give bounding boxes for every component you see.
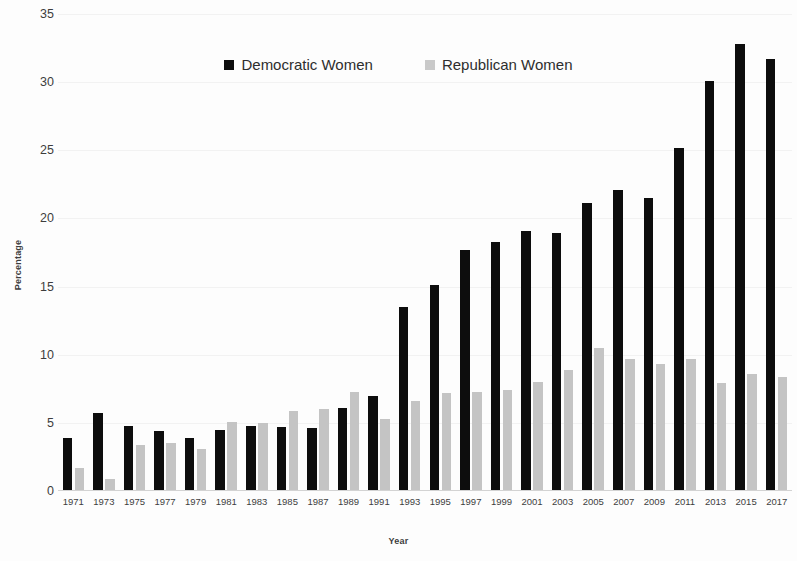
bar-republican-women-1983[interactable]	[258, 423, 268, 491]
bar-republican-women-1979[interactable]	[197, 449, 207, 491]
x-axis-tick-2015: 2015	[731, 497, 762, 507]
bar-group-1979	[180, 14, 211, 491]
bar-group-1981	[211, 14, 242, 491]
bar-democratic-women-2009[interactable]	[644, 198, 654, 491]
bar-republican-women-2005[interactable]	[594, 348, 604, 491]
bar-republican-women-1993[interactable]	[411, 401, 421, 491]
bar-democratic-women-1985[interactable]	[277, 427, 287, 491]
x-axis-tick-2003: 2003	[547, 497, 578, 507]
y-axis-tick-10: 10	[20, 349, 54, 362]
bar-group-1999	[486, 14, 517, 491]
bar-democratic-women-1983[interactable]	[246, 426, 256, 491]
bar-group-1991	[364, 14, 395, 491]
gray-square-icon	[425, 60, 435, 70]
bar-group-1987	[303, 14, 334, 491]
y-axis-tick-25: 25	[20, 144, 54, 157]
bar-group-2011	[670, 14, 701, 491]
bar-democratic-women-1991[interactable]	[368, 396, 378, 491]
x-axis-tick-2001: 2001	[517, 497, 548, 507]
bar-republican-women-2007[interactable]	[625, 359, 635, 491]
bar-group-1995	[425, 14, 456, 491]
bar-group-2007	[609, 14, 640, 491]
bar-group-2013	[700, 14, 731, 491]
bar-republican-women-1977[interactable]	[166, 443, 176, 491]
bar-democratic-women-1993[interactable]	[399, 307, 409, 491]
bar-republican-women-2003[interactable]	[564, 370, 574, 491]
bar-republican-women-1997[interactable]	[472, 392, 482, 491]
x-axis-tick-2007: 2007	[609, 497, 640, 507]
bar-group-1977	[150, 14, 181, 491]
bar-democratic-women-2001[interactable]	[521, 231, 531, 491]
x-axis-tick-1985: 1985	[272, 497, 303, 507]
x-axis-tick-1979: 1979	[180, 497, 211, 507]
bar-republican-women-1971[interactable]	[75, 468, 85, 491]
bar-group-2015	[731, 14, 762, 491]
bar-democratic-women-1971[interactable]	[63, 438, 73, 491]
legend-item-republican-women[interactable]: Republican Women	[425, 56, 573, 73]
plot-area	[58, 14, 792, 491]
bar-group-1989	[333, 14, 364, 491]
x-axis-tick-1999: 1999	[486, 497, 517, 507]
bar-group-2001	[517, 14, 548, 491]
bar-republican-women-1999[interactable]	[503, 390, 513, 491]
bar-republican-women-1995[interactable]	[442, 393, 452, 491]
bar-democratic-women-2005[interactable]	[582, 203, 592, 491]
x-axis-tick-2017: 2017	[761, 497, 792, 507]
bars-layer	[58, 14, 792, 491]
x-axis-tick-1989: 1989	[333, 497, 364, 507]
bar-democratic-women-1975[interactable]	[124, 426, 134, 491]
bar-democratic-women-2003[interactable]	[552, 233, 562, 491]
bar-democratic-women-1979[interactable]	[185, 438, 195, 491]
bar-democratic-women-1977[interactable]	[154, 431, 164, 491]
bar-republican-women-2015[interactable]	[747, 374, 757, 491]
bar-republican-women-1989[interactable]	[350, 392, 360, 491]
y-axis-tick-30: 30	[20, 76, 54, 89]
bar-group-1993	[394, 14, 425, 491]
x-axis-tick-1991: 1991	[364, 497, 395, 507]
x-axis-tick-labels: 1971197319751977197919811983198519871989…	[58, 497, 792, 513]
x-axis-tick-1971: 1971	[58, 497, 89, 507]
bar-democratic-women-2013[interactable]	[705, 81, 715, 491]
bar-democratic-women-1999[interactable]	[491, 242, 501, 491]
bar-republican-women-2009[interactable]	[656, 364, 666, 491]
bar-group-2005	[578, 14, 609, 491]
legend-label-republican-women: Republican Women	[442, 56, 573, 73]
x-axis-tick-1975: 1975	[119, 497, 150, 507]
bar-democratic-women-1995[interactable]	[430, 285, 440, 491]
bar-republican-women-2001[interactable]	[533, 382, 543, 491]
bar-republican-women-2017[interactable]	[778, 377, 788, 491]
bar-democratic-women-1973[interactable]	[93, 413, 103, 491]
bar-democratic-women-1989[interactable]	[338, 408, 348, 491]
x-axis-tick-1983: 1983	[242, 497, 273, 507]
bar-democratic-women-1997[interactable]	[460, 250, 470, 491]
x-axis-tick-1997: 1997	[456, 497, 487, 507]
x-axis-tick-2005: 2005	[578, 497, 609, 507]
x-axis-tick-1977: 1977	[150, 497, 181, 507]
y-axis-tick-35: 35	[20, 8, 54, 21]
bar-group-1973	[89, 14, 120, 491]
x-axis-tick-1981: 1981	[211, 497, 242, 507]
legend-item-democratic-women[interactable]: Democratic Women	[224, 56, 372, 73]
bar-group-1975	[119, 14, 150, 491]
x-axis-tick-2013: 2013	[700, 497, 731, 507]
x-axis-line	[58, 490, 792, 491]
bar-republican-women-1987[interactable]	[319, 409, 329, 491]
bar-republican-women-1981[interactable]	[227, 422, 237, 492]
bar-republican-women-1991[interactable]	[380, 419, 390, 491]
bar-group-2003	[547, 14, 578, 491]
bar-democratic-women-2017[interactable]	[766, 59, 776, 491]
bar-democratic-women-2007[interactable]	[613, 190, 623, 491]
bar-democratic-women-2011[interactable]	[674, 148, 684, 491]
x-axis-tick-1973: 1973	[89, 497, 120, 507]
bar-democratic-women-2015[interactable]	[735, 44, 745, 491]
bar-republican-women-2011[interactable]	[686, 359, 696, 491]
x-axis-tick-1987: 1987	[303, 497, 334, 507]
bar-republican-women-1975[interactable]	[136, 445, 146, 491]
bar-democratic-women-1981[interactable]	[215, 430, 225, 491]
bar-democratic-women-1987[interactable]	[307, 428, 317, 491]
x-axis-tick-1995: 1995	[425, 497, 456, 507]
bar-group-2017	[761, 14, 792, 491]
bar-republican-women-1985[interactable]	[289, 411, 299, 491]
x-axis-tick-1993: 1993	[394, 497, 425, 507]
bar-republican-women-2013[interactable]	[717, 383, 727, 491]
